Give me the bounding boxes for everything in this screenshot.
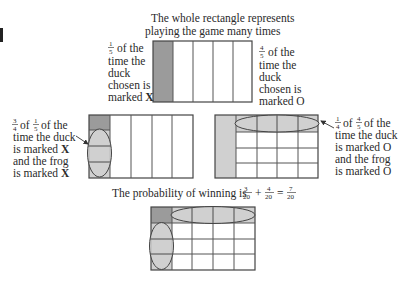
top-right-note: 4 5 of the time the duck chosen is marke… xyxy=(259,44,305,107)
svg-text:marked X: marked X xyxy=(108,91,154,103)
svg-text:chosen is: chosen is xyxy=(259,83,302,95)
svg-text:4: 4 xyxy=(260,44,264,52)
svg-text:time the: time the xyxy=(259,59,296,71)
svg-text:4: 4 xyxy=(267,185,271,193)
xx-ellipse-bottom xyxy=(150,223,174,270)
xx-ellipse xyxy=(88,129,112,177)
svg-text:The probability of winning is: The probability of winning is xyxy=(112,187,247,200)
svg-text:of the: of the xyxy=(117,42,144,54)
svg-text:1: 1 xyxy=(109,40,113,48)
svg-text:1: 1 xyxy=(34,117,38,125)
svg-text:3: 3 xyxy=(13,117,17,125)
title-line-2: playing the game many times xyxy=(145,25,281,38)
svg-text:duck: duck xyxy=(259,71,282,83)
svg-text:1: 1 xyxy=(336,115,340,123)
mid-right-rectangle xyxy=(215,115,319,178)
duck-x-column xyxy=(153,41,173,102)
svg-text:is marked X: is marked X xyxy=(13,167,70,179)
svg-text:chosen is: chosen is xyxy=(108,79,151,91)
svg-text:7: 7 xyxy=(289,185,293,193)
top-rectangle xyxy=(153,41,252,102)
svg-text:20: 20 xyxy=(243,193,251,201)
svg-text:of the: of the xyxy=(41,119,68,131)
svg-text:=: = xyxy=(277,187,284,199)
svg-text:duck: duck xyxy=(108,67,131,79)
top-left-note: 1 5 of the time the duck chosen is marke… xyxy=(108,40,154,103)
svg-text:is marked X: is marked X xyxy=(13,143,70,155)
svg-text:is marked O: is marked O xyxy=(335,165,391,177)
arrow-left xyxy=(76,136,88,144)
svg-text:marked O: marked O xyxy=(259,95,305,107)
svg-text:3: 3 xyxy=(244,185,248,193)
svg-text:of the: of the xyxy=(364,117,391,129)
arrow-right xyxy=(321,121,334,128)
mid-right-note: 1 4 of 4 5 of the time the duck is marke… xyxy=(321,115,398,177)
svg-text:20: 20 xyxy=(287,193,295,201)
title-line-1: The whole rectangle represents xyxy=(151,12,295,25)
svg-text:is marked O: is marked O xyxy=(335,141,391,153)
mid-left-rectangle xyxy=(88,115,194,178)
svg-text:time the duck: time the duck xyxy=(13,131,76,143)
svg-text:of: of xyxy=(343,117,353,129)
mid-left-note: 3 4 of 1 5 of the time the duck is marke… xyxy=(12,117,88,179)
edge-artifact xyxy=(0,28,3,42)
probability-statement: The probability of winning is 3 20 + 4 2… xyxy=(112,185,296,201)
probability-area-diagram: The whole rectangle represents playing t… xyxy=(0,0,405,282)
svg-text:time the: time the xyxy=(108,55,145,67)
svg-text:4: 4 xyxy=(357,115,361,123)
bottom-rectangle xyxy=(150,207,256,271)
svg-text:+: + xyxy=(255,187,262,199)
svg-text:of the: of the xyxy=(268,46,295,58)
svg-text:20: 20 xyxy=(265,193,273,201)
svg-text:time the duck: time the duck xyxy=(335,129,398,141)
svg-text:of: of xyxy=(20,119,30,131)
